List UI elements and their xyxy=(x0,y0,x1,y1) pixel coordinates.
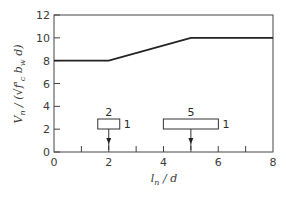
x-axis-label-part: / d xyxy=(159,172,177,185)
beam-annotation-1: 21 xyxy=(98,106,131,150)
beam-box xyxy=(163,119,218,129)
x-tick-label: 4 xyxy=(160,156,167,169)
x-tick-label: 2 xyxy=(105,156,112,169)
plot-frame xyxy=(54,15,273,152)
x-tick-label: 0 xyxy=(51,156,58,169)
y-axis-label-part: b xyxy=(12,66,25,77)
beam-annotation-2: 51 xyxy=(163,106,229,150)
beam-span-label: 5 xyxy=(187,106,194,119)
chart: 024681012024682151Vn / (√f'c bw d)ln / d xyxy=(0,0,286,202)
x-tick-label: 6 xyxy=(215,156,222,169)
beam-depth-label: 1 xyxy=(124,118,131,131)
y-tick-label: 12 xyxy=(36,9,50,22)
y-axis-label-part: f' xyxy=(12,81,25,89)
load-arrow-head-icon xyxy=(188,138,193,144)
x-tick-label: 8 xyxy=(270,156,277,169)
beam-box xyxy=(98,119,120,129)
load-arrow-head-icon xyxy=(106,138,111,144)
y-tick-label: 0 xyxy=(43,146,50,159)
x-axis-label: ln / d xyxy=(151,172,177,187)
data-line xyxy=(54,38,273,61)
beam-span-label: 2 xyxy=(105,106,112,119)
y-tick-label: 4 xyxy=(43,100,50,113)
y-axis-label-part: d) xyxy=(12,45,25,60)
plot-area: 024681012024682151Vn / (√f'c bw d)ln / d xyxy=(12,9,277,187)
y-tick-label: 10 xyxy=(36,32,50,45)
y-tick-label: 2 xyxy=(43,123,50,136)
y-axis-label-part: / ( xyxy=(12,95,25,111)
beam-depth-label: 1 xyxy=(222,118,229,131)
y-tick-label: 8 xyxy=(43,55,50,68)
y-axis-label: Vn / (√f'c bw d) xyxy=(12,45,27,124)
y-tick-label: 6 xyxy=(43,78,50,91)
